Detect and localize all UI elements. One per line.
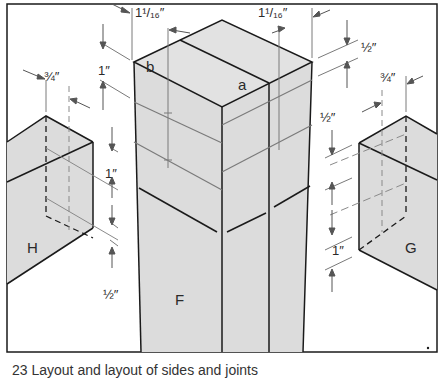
dim-top-right: 1¹/₁₆″ — [258, 5, 288, 20]
left-block-label: H — [27, 239, 38, 256]
corner-dot — [427, 347, 429, 349]
top-label-b: b — [146, 58, 154, 75]
dim-right-lower-height: 1″ — [332, 243, 344, 258]
right-block-label: G — [405, 239, 417, 256]
figure-caption: 23 Layout and layout of sides and joints — [12, 362, 258, 378]
dim-right-mid-offset: ½″ — [320, 110, 336, 125]
top-label-a: a — [238, 76, 247, 93]
dim-left-upper-height: 1″ — [98, 63, 110, 78]
isometric-joint-diagram: b a F H G 1¹/₁₆″ 1¹/₁₆″ ½″ ¾″ 1″ 1″ ½″ ¾… — [0, 0, 444, 383]
main-block-label: F — [175, 291, 184, 308]
main-block-f — [134, 20, 312, 352]
dim-right-block-width: ¾″ — [380, 70, 396, 85]
dim-top-left: 1¹/₁₆″ — [135, 5, 165, 20]
dim-left-bottom-offset: ½″ — [103, 287, 119, 302]
dim-left-block-width: ¾″ — [44, 69, 60, 84]
dim-right-top-offset: ½″ — [361, 40, 377, 55]
dim-left-mid-height: 1″ — [105, 166, 117, 181]
